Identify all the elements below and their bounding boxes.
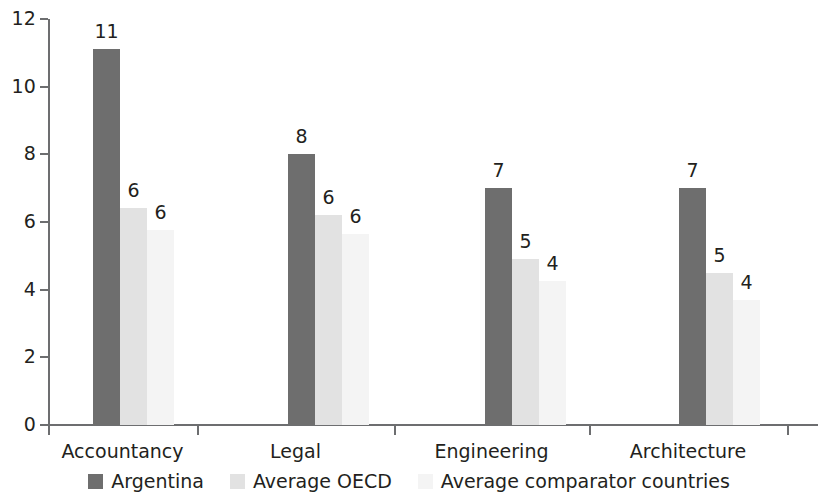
bar-chart: 024681012 1166866754754 AccountancyLegal…	[0, 0, 818, 502]
bar	[342, 234, 369, 425]
bar-value-label: 6	[114, 181, 154, 200]
y-axis-tick	[40, 289, 48, 291]
y-axis-tick-label-wrap: 0	[0, 415, 36, 434]
bar-value-label: 6	[336, 207, 376, 226]
y-axis-tick-label: 6	[2, 212, 36, 231]
category-label-architecture: Architecture	[589, 440, 787, 462]
legend-item: Average OECD	[230, 472, 392, 491]
bar-value-label: 6	[309, 188, 349, 207]
bar-value-label: 8	[282, 127, 322, 146]
legend-label: Average comparator countries	[441, 472, 730, 491]
bar	[315, 215, 342, 425]
y-axis-tick	[40, 18, 48, 20]
bar	[93, 49, 120, 425]
y-axis-tick	[40, 153, 48, 155]
dark-gray-swatch	[88, 474, 103, 489]
x-axis-tick	[787, 426, 789, 435]
y-axis-tick-label: 12	[2, 9, 36, 28]
legend-label: Argentina	[111, 472, 204, 491]
bar	[485, 188, 512, 425]
pale-gray-swatch	[418, 474, 433, 489]
y-axis-tick	[40, 86, 48, 88]
x-axis-tick	[394, 426, 396, 435]
bar-group	[485, 19, 566, 425]
bar-value-label: 11	[87, 22, 127, 41]
x-axis-tick	[197, 426, 199, 435]
y-axis-tick-label: 10	[2, 77, 36, 96]
bar-value-label: 6	[141, 203, 181, 222]
legend-item: Argentina	[88, 472, 204, 491]
y-axis-tick	[40, 424, 48, 426]
category-label-accountancy: Accountancy	[48, 440, 197, 462]
light-gray-swatch	[230, 474, 245, 489]
chart-legend: ArgentinaAverage OECDAverage comparator …	[0, 472, 818, 491]
bar-value-label: 7	[479, 161, 519, 180]
category-label-engineering: Engineering	[394, 440, 589, 462]
y-axis-tick-label: 4	[2, 280, 36, 299]
bar-value-label: 5	[700, 246, 740, 265]
bar-value-label: 4	[727, 273, 767, 292]
bar	[679, 188, 706, 425]
bar-group	[679, 19, 760, 425]
bar	[706, 273, 733, 425]
y-axis-tick	[40, 356, 48, 358]
category-label-legal: Legal	[197, 440, 394, 462]
bar-value-label: 5	[506, 232, 546, 251]
bar-value-label: 4	[533, 254, 573, 273]
bar	[147, 230, 174, 425]
y-axis-tick-label-wrap: 12	[0, 9, 36, 28]
x-axis-tick	[48, 426, 50, 435]
y-axis-tick-label-wrap: 4	[0, 280, 36, 299]
bar	[120, 208, 147, 425]
x-axis-tick	[589, 426, 591, 435]
y-axis-tick-label-wrap: 10	[0, 77, 36, 96]
y-axis-tick-label-wrap: 6	[0, 212, 36, 231]
bar	[539, 281, 566, 425]
y-axis-tick-label: 0	[2, 415, 36, 434]
y-axis-tick	[40, 221, 48, 223]
bar	[733, 300, 760, 425]
bar-value-label: 7	[673, 161, 713, 180]
legend-item: Average comparator countries	[418, 472, 730, 491]
y-axis-tick-label-wrap: 8	[0, 144, 36, 163]
y-axis-tick-label: 2	[2, 347, 36, 366]
bar	[512, 259, 539, 425]
legend-label: Average OECD	[253, 472, 392, 491]
y-axis-tick-label-wrap: 2	[0, 347, 36, 366]
y-axis-tick-label: 8	[2, 144, 36, 163]
